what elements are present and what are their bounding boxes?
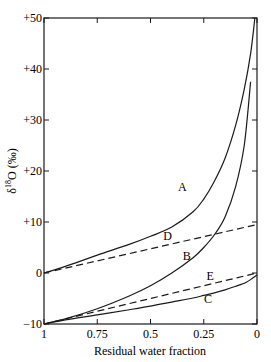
plot-frame [44,18,257,324]
x-tick-label: 0 [254,327,260,341]
x-tick-label: 0.75 [87,327,108,341]
x-tick-label: 1 [41,327,47,341]
curve-label-b: B [183,249,191,263]
y-tick-label: +40 [23,62,42,76]
curve-c [44,275,257,324]
y-axis: −100+10+20+30+40+50 [23,11,257,331]
curve-label-a: A [178,180,187,194]
x-tick-label: 0.25 [193,327,214,341]
y-axis-title-superscript: 18 [4,180,13,188]
y-tick-label: +10 [23,215,42,229]
y-tick-label: +20 [23,164,42,178]
y-tick-label: +50 [23,11,42,25]
y-tick-label: +30 [23,113,42,127]
y-tick-label: 0 [36,266,42,280]
curve-label-e: E [206,269,213,283]
x-axis-title: Residual water fraction [94,344,206,358]
y-axis-title: δ18O (‰) [4,148,19,193]
chart: −100+10+20+30+40+50 10.750.50.250 ADBEC … [0,0,271,362]
y-axis-title-rest: O (‰) [5,148,19,180]
y-tick-label: −10 [23,317,42,331]
x-axis: 10.750.50.250 [41,18,260,341]
curve-labels: ADBEC [163,180,214,305]
curve-label-c: C [204,292,212,306]
curve-a [44,18,255,273]
curve-b [44,82,251,324]
curves [44,18,257,324]
x-tick-label: 0.5 [143,327,158,341]
curve-d [44,225,257,273]
curve-label-d: D [163,229,172,243]
